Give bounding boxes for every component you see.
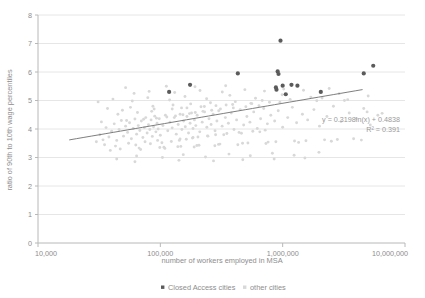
y-tick-label-8: 8 bbox=[28, 11, 32, 20]
y-axis-title: ratio of 90th to 10th wage percentiles bbox=[5, 69, 14, 191]
y-tick-label-4: 4 bbox=[28, 125, 32, 134]
trendline-equation: y = 0.3198ln(x) + 0.4838 bbox=[322, 115, 400, 124]
y-tick-label-1: 1 bbox=[28, 210, 32, 219]
y-tick-label-6: 6 bbox=[28, 68, 32, 77]
trendline-r-squared: R² = 0.391 bbox=[366, 125, 400, 134]
y-tick-label-2: 2 bbox=[28, 182, 32, 191]
y-tick-label-0: 0 bbox=[28, 239, 32, 248]
y-tick-label-5: 5 bbox=[28, 96, 32, 105]
x-tick-label-10000000: 10,000,000 bbox=[372, 249, 408, 258]
y-tick-label-3: 3 bbox=[28, 153, 32, 162]
x-tick-label-10000: 10,000 bbox=[35, 249, 57, 258]
scatter-chart: 01234567810,000100,0001,000,00010,000,00… bbox=[0, 0, 425, 298]
labels-layer: 01234567810,000100,0001,000,00010,000,00… bbox=[0, 0, 425, 298]
y-tick-label-7: 7 bbox=[28, 39, 32, 48]
tick-labels: 01234567810,000100,0001,000,00010,000,00… bbox=[28, 11, 408, 258]
legend-label-other-cities[interactable]: other cities bbox=[250, 283, 286, 292]
legend-marker-closed-access bbox=[161, 286, 164, 289]
legend-marker-other-cities bbox=[243, 286, 246, 289]
x-axis-title: number of workers employed in MSA bbox=[161, 256, 282, 265]
legend-label-closed-access[interactable]: Closed Access cities bbox=[168, 283, 236, 292]
